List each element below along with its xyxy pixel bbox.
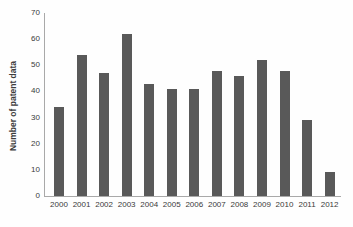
y-tick-label-30: 30 bbox=[20, 114, 40, 122]
bar-2005 bbox=[167, 89, 177, 196]
y-tick-label-0: 0 bbox=[20, 192, 40, 200]
x-tick-label-2011: 2011 bbox=[295, 200, 319, 209]
x-tick-label-2012: 2012 bbox=[318, 200, 342, 209]
y-tick-label-20: 20 bbox=[20, 140, 40, 148]
x-tick-label-2004: 2004 bbox=[137, 200, 161, 209]
bar-2012 bbox=[325, 172, 335, 196]
x-tick-label-2000: 2000 bbox=[47, 200, 71, 209]
x-tick-label-2003: 2003 bbox=[115, 200, 139, 209]
bar-2009 bbox=[257, 60, 267, 196]
bar-2000 bbox=[54, 107, 64, 196]
x-tick-label-2005: 2005 bbox=[160, 200, 184, 209]
x-tick-label-2008: 2008 bbox=[227, 200, 251, 209]
x-tick-label-2007: 2007 bbox=[205, 200, 229, 209]
bar-2003 bbox=[122, 34, 132, 196]
bar-2002 bbox=[99, 73, 109, 196]
x-tick-label-2010: 2010 bbox=[273, 200, 297, 209]
y-tick-label-50: 50 bbox=[20, 61, 40, 69]
bar-2011 bbox=[302, 120, 312, 196]
y-tick-label-10: 10 bbox=[20, 166, 40, 174]
x-tick-label-2002: 2002 bbox=[92, 200, 116, 209]
plot-area: 010203040506070 200020012002200320042005… bbox=[44, 13, 341, 197]
bar-2006 bbox=[189, 89, 199, 196]
y-axis-title: Number of patent data bbox=[8, 46, 18, 166]
bar-chart-figure: Number of patent data 010203040506070 20… bbox=[0, 0, 353, 227]
x-tick-label-2001: 2001 bbox=[70, 200, 94, 209]
x-tick-label-2006: 2006 bbox=[182, 200, 206, 209]
y-tick-label-60: 60 bbox=[20, 35, 40, 43]
x-tick-label-2009: 2009 bbox=[250, 200, 274, 209]
bar-2004 bbox=[144, 84, 154, 196]
y-tick-label-70: 70 bbox=[20, 9, 40, 17]
bar-2007 bbox=[212, 71, 222, 196]
y-tick-label-40: 40 bbox=[20, 87, 40, 95]
bar-2010 bbox=[280, 71, 290, 196]
bar-2008 bbox=[234, 76, 244, 196]
bar-2001 bbox=[77, 55, 87, 196]
